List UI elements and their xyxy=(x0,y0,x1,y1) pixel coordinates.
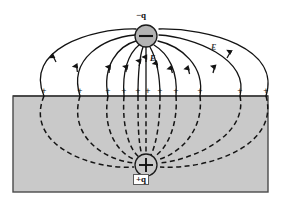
positive-charge-label: +q xyxy=(0,174,282,185)
surface-charge-plus: + xyxy=(41,87,46,96)
field-arrow xyxy=(213,67,215,73)
surface-charge-plus: + xyxy=(105,87,110,96)
negative-charge xyxy=(135,25,157,47)
surface-charge-plus: + xyxy=(77,87,82,96)
surface-charge-plus: + xyxy=(135,87,140,96)
surface-charge-plus: + xyxy=(157,87,162,96)
surface-charge-plus: + xyxy=(237,87,242,96)
surface-charge-plus: + xyxy=(173,87,178,96)
field-line xyxy=(158,41,201,96)
positive-charge-label-text: +q xyxy=(133,174,149,185)
field-arrow xyxy=(77,66,78,72)
negative-charge-label: −q xyxy=(0,11,282,20)
field-arrow xyxy=(188,68,190,74)
field-arrow xyxy=(171,68,172,73)
surface-charge-plus: + xyxy=(197,87,202,96)
positive-image-charge xyxy=(135,154,157,176)
field-label-center: E xyxy=(150,55,155,63)
field-arrow xyxy=(139,61,140,66)
field-arrow xyxy=(109,67,110,73)
field-label-right: E xyxy=(211,44,216,52)
field-arrow xyxy=(227,52,230,58)
physics-diagram-figure: +++++++++++ −q +q E E xyxy=(0,0,282,202)
surface-charge-plus: + xyxy=(145,87,150,96)
field-diagram-canvas xyxy=(0,0,282,202)
field-arrow xyxy=(53,56,56,62)
field-arrow xyxy=(156,63,157,68)
surface-charge-plus: + xyxy=(263,87,268,96)
surface-charge-plus: + xyxy=(121,87,126,96)
